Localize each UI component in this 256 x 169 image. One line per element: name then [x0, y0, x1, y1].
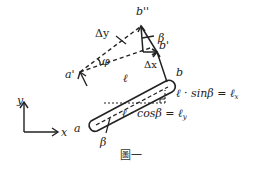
arrow-a-to-a-prime: [78, 72, 87, 86]
label-ell: ℓ: [123, 72, 128, 85]
rod: [89, 80, 175, 131]
label-a: a: [74, 122, 81, 135]
label-delta-y: Δy: [95, 27, 110, 40]
label-beta-upper: β: [157, 32, 164, 45]
label-b: b: [176, 66, 183, 79]
rotation-lines: [80, 27, 150, 72]
label-b-double-prime: b'': [136, 5, 149, 18]
label-a-prime: a': [65, 68, 75, 81]
label-beta-lower: β: [99, 136, 106, 149]
equation-cos: ℓ · cosβ = ℓy: [122, 107, 188, 121]
label-delta-x: Δx: [144, 59, 157, 70]
axis-label-x: x: [61, 126, 68, 139]
figure-caption: 圖一: [120, 149, 142, 162]
equation-sin: ℓ · sinβ = ℓx: [176, 87, 239, 101]
axis-label-y: y: [16, 94, 24, 107]
label-phi: φ: [102, 55, 110, 68]
delta-y-tick: [116, 36, 126, 44]
phi-angle-arc: [98, 59, 100, 65]
diagram-canvas: b'' b' a' a b Δy Δx φ β ℓ β ℓ · sinβ = ℓ…: [0, 0, 256, 169]
coordinate-axes: [20, 102, 58, 136]
